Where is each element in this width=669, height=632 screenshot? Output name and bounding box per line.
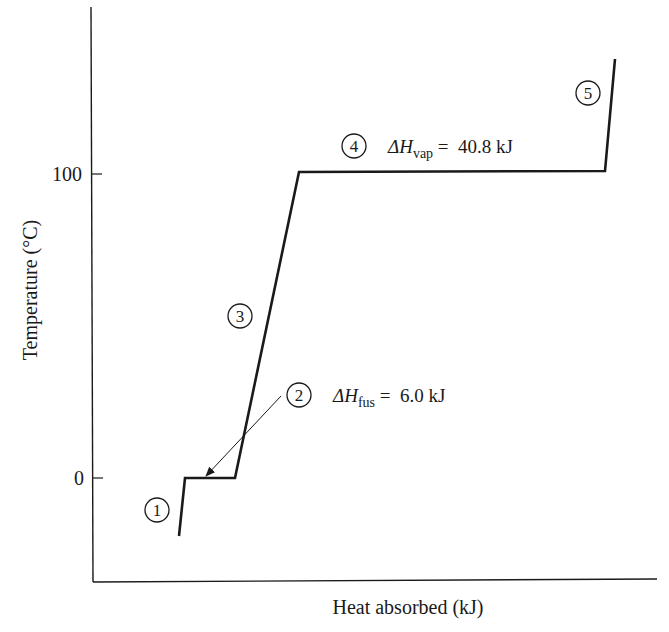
y-axis (91, 7, 93, 582)
vaporization-enthalpy-annotation: ΔHvap = 40.8 kJ (387, 136, 513, 161)
fusion-enthalpy-annotation: ΔHfus = 6.0 kJ (332, 385, 445, 410)
circle-3-number: 3 (236, 307, 245, 326)
heating-curve-chart: 100 0 Heat absorbed (kJ) Temperature (°C… (0, 0, 669, 632)
segment-label-5: 5 (576, 81, 600, 105)
fusion-value: = 6.0 kJ (375, 385, 445, 406)
x-axis (93, 579, 657, 582)
vaporization-delta-h: ΔH (387, 136, 414, 157)
heating-curve-line (179, 59, 615, 536)
y-tick-label-0: 0 (74, 467, 84, 489)
circle-2-number: 2 (295, 386, 304, 405)
x-axis-title: Heat absorbed (kJ) (332, 596, 483, 619)
segment-label-3: 3 (228, 304, 252, 328)
fusion-subscript: fus (358, 395, 375, 410)
segment-label-4: 4 (342, 134, 366, 158)
circle-1-number: 1 (153, 501, 162, 520)
vaporization-subscript: vap (413, 146, 433, 161)
vaporization-value: = 40.8 kJ (433, 136, 513, 157)
y-axis-title: Temperature (°C) (19, 220, 42, 360)
fusion-delta-h: ΔH (332, 385, 359, 406)
fusion-arrow (206, 396, 281, 476)
circle-4-number: 4 (350, 137, 359, 156)
segment-label-1: 1 (145, 498, 169, 522)
segment-label-2: 2 (287, 383, 311, 407)
circle-5-number: 5 (584, 84, 593, 103)
axes (91, 7, 657, 582)
y-tick-label-100: 100 (52, 163, 82, 185)
